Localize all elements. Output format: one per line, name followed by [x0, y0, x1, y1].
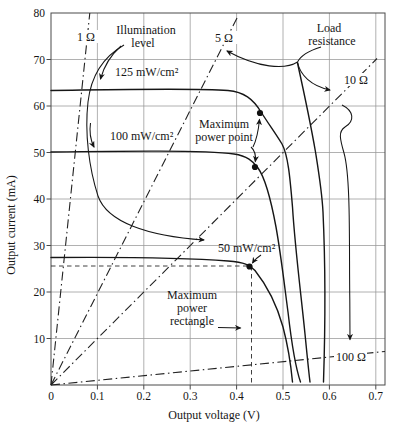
max-power-point-100 — [252, 164, 258, 170]
label-125-mw: 125 mW/cm² — [115, 65, 179, 79]
label-illumination-line2: level — [131, 36, 155, 50]
arrow-mpp-to-dot-125 — [253, 120, 260, 148]
arrow-mpr-to-rectangle — [218, 328, 241, 329]
max-power-point-50 — [246, 263, 252, 269]
y-tick-80: 80 — [34, 7, 46, 19]
y-tick-50: 50 — [34, 147, 46, 159]
y-tick-10: 10 — [34, 333, 46, 345]
arrow-50-to-dot — [253, 255, 262, 263]
label-load-line1: Load — [317, 21, 342, 35]
iv-curve-chart: 80 70 60 50 40 30 20 10 0 0.1 0.2 0.3 0.… — [0, 0, 399, 437]
x-tick-0-1: 0.1 — [90, 390, 105, 402]
y-tick-20: 20 — [34, 286, 46, 298]
label-mpr-line1: Maximum — [167, 288, 218, 302]
x-tick-0-5: 0.5 — [276, 390, 291, 402]
label-100-mw: 100 mW/cm² — [110, 129, 174, 143]
x-tick-0-2: 0.2 — [137, 390, 152, 402]
x-tick-0-3: 0.3 — [183, 390, 198, 402]
label-mpp-line1: Maximum — [199, 117, 250, 131]
label-100-ohm: 100 Ω — [336, 350, 366, 364]
y-axis-title: Output current (mA) — [4, 175, 18, 274]
y-tick-30: 30 — [34, 240, 46, 252]
max-power-point-125 — [257, 110, 263, 116]
y-tick-70: 70 — [34, 54, 46, 66]
iv-curve-extra — [298, 63, 325, 382]
label-50-mw: 50 mW/cm² — [218, 241, 276, 255]
label-1-ohm: 1 Ω — [77, 30, 95, 44]
label-mpr-line2: power — [177, 301, 207, 315]
label-mpr-line3: rectangle — [170, 314, 214, 328]
label-10-ohm: 10 Ω — [344, 73, 368, 87]
label-load-line2: resistance — [308, 34, 355, 48]
grid — [51, 13, 385, 385]
label-illumination-line1: Illumination — [116, 23, 175, 37]
arrow-to-100-ohm — [340, 105, 351, 340]
x-axis-title: Output voltage (V) — [168, 408, 259, 422]
arrow-mpp-to-dot-100 — [251, 147, 256, 162]
chart-text: 80 70 60 50 40 30 20 10 0 0.1 0.2 0.3 0.… — [4, 7, 383, 422]
label-mpp-line2: power point — [195, 130, 253, 144]
x-tick-0-6: 0.6 — [322, 390, 337, 402]
label-5-ohm: 5 Ω — [215, 31, 233, 45]
x-tick-0: 0 — [48, 390, 54, 402]
x-tick-0-7: 0.7 — [369, 390, 384, 402]
arrow-load-to-5-ohm — [227, 51, 298, 67]
load-line-10-ohm — [51, 59, 377, 386]
x-tick-0-4: 0.4 — [229, 390, 244, 402]
y-tick-60: 60 — [34, 100, 46, 112]
y-tick-40: 40 — [34, 193, 46, 205]
arrow-illumination-to-100 — [90, 123, 94, 147]
iv-curve-figure: 80 70 60 50 40 30 20 10 0 0.1 0.2 0.3 0.… — [0, 0, 399, 437]
